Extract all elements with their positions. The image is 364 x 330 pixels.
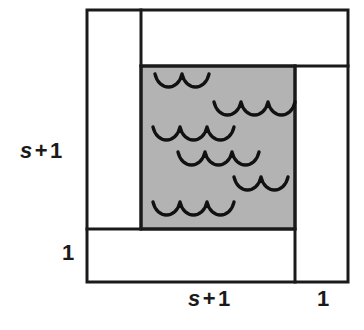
label-bottom-width-variable: s [188, 286, 201, 311]
label-bottom-width-number: 1 [218, 286, 231, 311]
label-left-height: s+1 [20, 140, 63, 162]
label-left-height-number: 1 [50, 138, 63, 163]
label-left-height-operator: + [33, 138, 50, 163]
diagram-canvas: s+1 1 s+1 1 [0, 0, 364, 330]
label-bottom-unit: 1 [317, 288, 330, 310]
label-bottom-width-operator: + [201, 286, 218, 311]
label-left-unit-number: 1 [62, 240, 75, 265]
label-bottom-unit-number: 1 [317, 286, 330, 311]
shaded-rectangle-fill [141, 66, 295, 229]
label-left-height-variable: s [20, 138, 33, 163]
label-left-unit: 1 [62, 242, 75, 264]
label-bottom-width: s+1 [188, 288, 231, 310]
geometric-diagram [0, 0, 364, 330]
